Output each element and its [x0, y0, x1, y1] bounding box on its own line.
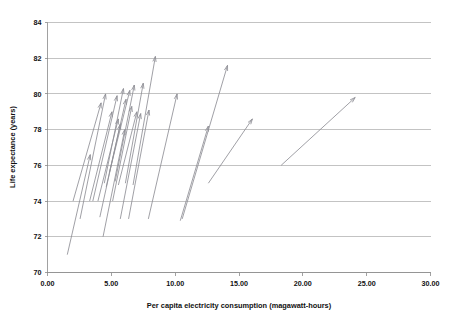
x-tick-label-25: 25.00	[358, 279, 376, 288]
arrow-17	[129, 110, 150, 219]
y-tick-label-72: 72	[34, 232, 42, 241]
x-tick-label-15: 15.00	[230, 279, 248, 288]
x-tick-label-20: 20.00	[294, 279, 312, 288]
y-tick-label-78: 78	[34, 125, 42, 134]
y-tick-label-80: 80	[34, 90, 42, 99]
y-tick-label-84: 84	[34, 18, 42, 27]
arrow-23	[281, 98, 355, 166]
x-axis-tick-labels: 0.005.0010.0015.0020.0025.0030.00	[41, 279, 440, 288]
arrow-shaft	[67, 155, 90, 255]
vector-arrow-chart: 7072747678808284 0.005.0010.0015.0020.00…	[0, 0, 467, 320]
arrow-shaft	[182, 65, 227, 219]
x-tick-label-30: 30.00	[422, 279, 440, 288]
arrow-shaft	[281, 98, 355, 166]
arrow-shaft	[103, 130, 125, 237]
arrow-shaft	[148, 94, 177, 219]
y-axis-title: Life expectance (years)	[8, 106, 17, 188]
chart-container: 7072747678808284 0.005.0010.0015.0020.00…	[0, 0, 467, 320]
arrow-shaft	[180, 126, 208, 221]
arrow-series	[67, 56, 355, 254]
arrow-21	[182, 65, 227, 219]
arrow-20	[180, 126, 208, 221]
arrow-shaft	[104, 89, 123, 184]
x-tick-label-5: 5.00	[104, 279, 118, 288]
x-tick-label-0: 0.00	[41, 279, 55, 288]
arrow-6	[98, 119, 119, 201]
arrow-9	[104, 89, 124, 184]
arrow-22	[208, 119, 252, 183]
arrow-shaft	[129, 110, 149, 219]
y-tick-label-70: 70	[34, 268, 42, 277]
y-tick-label-76: 76	[34, 161, 42, 170]
y-tick-label-82: 82	[34, 54, 42, 63]
x-tick-label-10: 10.00	[166, 279, 184, 288]
y-tick-label-74: 74	[34, 197, 42, 206]
y-axis-tick-labels: 7072747678808284	[34, 18, 42, 277]
arrow-19	[148, 94, 177, 219]
x-axis-title: Per capita electricity consumption (maga…	[147, 301, 332, 310]
arrow-shaft	[208, 119, 252, 183]
arrow-1	[67, 155, 90, 255]
